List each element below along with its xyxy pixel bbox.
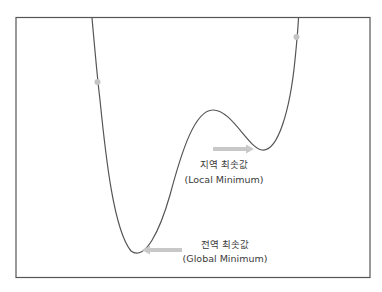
start-point-left-dot xyxy=(95,79,101,85)
loss-curve-diagram: 지역 최솟값 (Local Minimum) 전역 최솟값 (Global Mi… xyxy=(0,0,382,292)
global-minimum-label-en: (Global Minimum) xyxy=(183,253,268,264)
start-point-right-dot xyxy=(294,34,300,40)
global-minimum-label-ko: 전역 최솟값 xyxy=(201,239,249,250)
frame xyxy=(16,18,370,278)
local-minimum-label-ko: 지역 최솟값 xyxy=(200,159,248,170)
local-minimum-label-en: (Local Minimum) xyxy=(184,174,263,185)
